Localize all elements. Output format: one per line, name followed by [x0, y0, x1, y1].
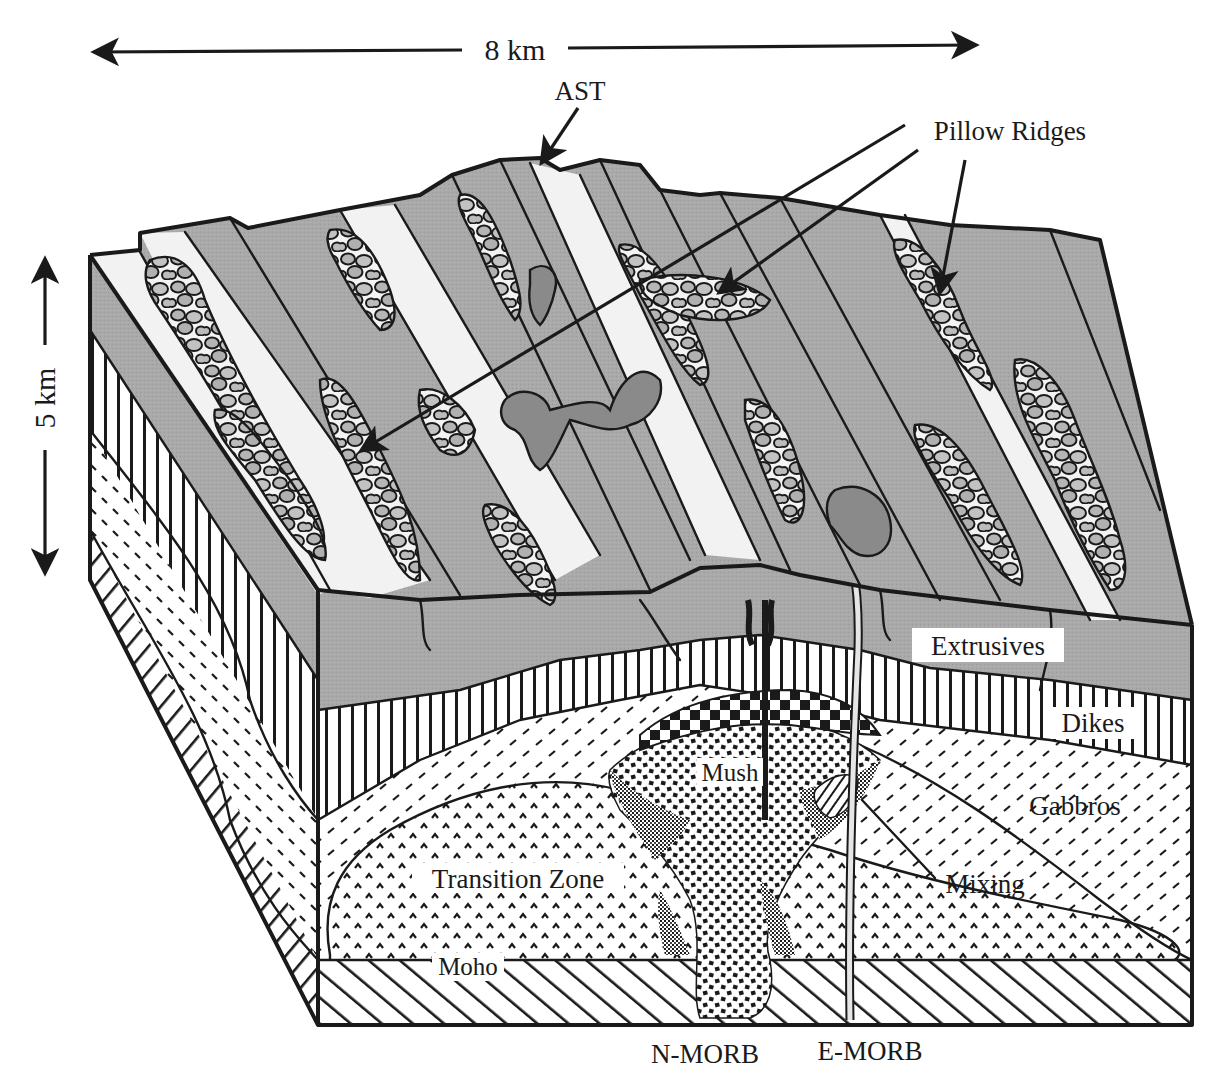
label-e-morb: E-MORB [817, 1036, 922, 1066]
label-n-morb: N-MORB [651, 1039, 759, 1069]
label-gabbros: Gabbros [1029, 791, 1120, 821]
label-extrusives: Extrusives [931, 631, 1045, 661]
label-transition-zone: Transition Zone [432, 864, 604, 894]
vertical-scale: 5 km [28, 260, 61, 572]
horizontal-scale: 8 km [95, 33, 975, 66]
label-mixing: Mixing [945, 869, 1025, 899]
label-dikes: Dikes [1062, 708, 1125, 738]
label-moho: Moho [438, 953, 498, 980]
scale-5km: 5 km [28, 368, 61, 429]
label-pillow-ridges: Pillow Ridges [934, 116, 1086, 146]
scale-8km: 8 km [485, 33, 546, 66]
ridge-block-diagram: 8 km 5 km AST Pillow Ridges Extrusives D… [0, 0, 1218, 1083]
label-mush: Mush [702, 759, 759, 786]
label-ast: AST [554, 76, 606, 106]
